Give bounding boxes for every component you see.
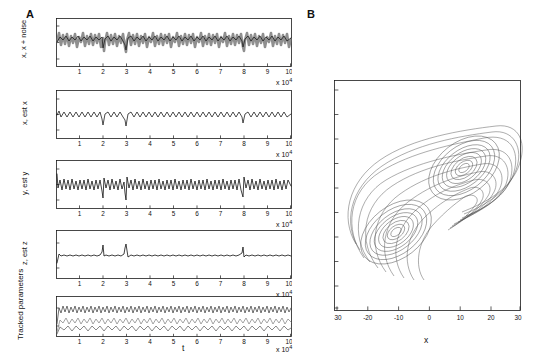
svg-text:4: 4 — [148, 338, 152, 345]
svg-text:-30: -30 — [334, 314, 342, 321]
svg-text:20: 20 — [487, 314, 495, 321]
subplot-est-z-svg: 50 0 1 2 3 4 5 6 7 8 9 10 — [56, 230, 292, 288]
data-trace-a2 — [57, 111, 291, 126]
svg-text:9: 9 — [266, 210, 270, 217]
svg-text:2: 2 — [101, 140, 105, 147]
svg-text:7: 7 — [219, 210, 223, 217]
svg-text:8: 8 — [242, 338, 246, 345]
svg-text:5: 5 — [172, 338, 176, 345]
data-trace-a3 — [57, 174, 291, 200]
svg-text:-10: -10 — [394, 314, 404, 321]
svg-text:7: 7 — [219, 140, 223, 147]
axes-frame-b — [334, 80, 520, 310]
x-exponent-a3: x 104 — [276, 219, 292, 228]
svg-text:6: 6 — [195, 68, 199, 75]
svg-text:7: 7 — [219, 338, 223, 345]
data-trace-param3-a5 — [57, 326, 291, 334]
svg-text:9: 9 — [266, 338, 270, 345]
subplot-est-x-svg: 50 0 -50 1 2 3 4 5 6 7 8 9 10 — [56, 90, 292, 148]
ylabel-a4: z, est z — [20, 241, 29, 265]
svg-text:10: 10 — [285, 68, 292, 75]
subplot-est-z: 50 0 1 2 3 4 5 6 7 8 9 10 — [56, 230, 292, 288]
x-exponent-a1: x 104 — [276, 77, 292, 86]
xtick-labels-a5: 1 2 3 4 5 6 7 8 9 10 — [78, 338, 292, 345]
subplot-tracked-parameters-svg: 0 -50 1 2 3 4 5 6 7 8 9 10 — [56, 296, 292, 348]
svg-text:0: 0 — [428, 314, 432, 321]
ylabel-a1: x, x + noise — [20, 20, 29, 58]
xlabel-panel-a: t — [182, 343, 184, 353]
svg-text:1: 1 — [78, 210, 82, 217]
svg-text:5: 5 — [172, 280, 176, 287]
subplot-est-y: 50 0 -50 1 2 3 4 5 6 7 8 9 10 — [56, 160, 292, 218]
x-exponent-a5: x 104 — [276, 344, 292, 353]
subplot-est-y-svg: 50 0 -50 1 2 3 4 5 6 7 8 9 10 — [56, 160, 292, 218]
svg-text:6: 6 — [195, 210, 199, 217]
svg-text:3: 3 — [125, 140, 129, 147]
xtick-labels-a1: 1 2 3 4 5 6 7 8 9 10 — [78, 68, 292, 75]
svg-text:3: 3 — [125, 68, 129, 75]
subplot-est-x: 50 0 -50 1 2 3 4 5 6 7 8 9 10 — [56, 90, 292, 148]
svg-text:2: 2 — [101, 68, 105, 75]
svg-text:1: 1 — [78, 140, 82, 147]
svg-text:3: 3 — [125, 210, 129, 217]
ylabel-a5: Tracked parameters — [16, 269, 25, 340]
subplot-x-plus-noise-svg: 20 0 -20 1 2 3 4 5 6 7 8 9 10 — [56, 18, 292, 76]
svg-text:2: 2 — [101, 280, 105, 287]
subplot-tracked-parameters: 0 -50 1 2 3 4 5 6 7 8 9 10 — [56, 296, 292, 348]
svg-text:4: 4 — [148, 140, 152, 147]
data-trace-attractor-b — [348, 123, 522, 280]
data-trace-noise-a1 — [57, 33, 291, 52]
svg-text:5: 5 — [172, 68, 176, 75]
svg-text:10: 10 — [285, 140, 292, 147]
svg-text:9: 9 — [266, 140, 270, 147]
svg-text:6: 6 — [195, 280, 199, 287]
svg-text:5: 5 — [172, 210, 176, 217]
svg-text:2: 2 — [101, 338, 105, 345]
svg-text:1: 1 — [78, 68, 82, 75]
data-trace-a4 — [57, 244, 291, 263]
svg-text:30: 30 — [514, 314, 522, 321]
svg-text:5: 5 — [172, 140, 176, 147]
xtick-marks-a1 — [56, 26, 290, 66]
svg-text:8: 8 — [242, 210, 246, 217]
svg-text:1: 1 — [78, 280, 82, 287]
svg-text:4: 4 — [148, 210, 152, 217]
svg-text:3: 3 — [125, 338, 129, 345]
svg-text:6: 6 — [195, 140, 199, 147]
axes-frame-a5 — [56, 296, 291, 336]
tick-marks-b — [334, 90, 520, 310]
xlabel-panel-b: x — [424, 335, 428, 345]
svg-text:8: 8 — [242, 68, 246, 75]
svg-text:7: 7 — [219, 68, 223, 75]
panel-a-label: A — [26, 8, 34, 20]
svg-text:1: 1 — [78, 338, 82, 345]
axes-frame-a4 — [56, 230, 291, 278]
svg-text:7: 7 — [219, 280, 223, 287]
svg-text:8: 8 — [242, 280, 246, 287]
svg-text:4: 4 — [148, 68, 152, 75]
svg-text:8: 8 — [242, 140, 246, 147]
svg-text:10: 10 — [285, 280, 292, 287]
xtick-labels-a4: 1 2 3 4 5 6 7 8 9 10 — [78, 280, 292, 287]
subplot-attractor-svg: 50 40 30 20 10 0 -10 -20 -30 -40 -30 -20… — [334, 80, 530, 330]
svg-text:10: 10 — [457, 314, 465, 321]
svg-text:3: 3 — [125, 280, 129, 287]
ylabel-a2: x, est x — [20, 101, 29, 125]
xtick-labels-b: -30 -20 -10 0 10 20 30 — [334, 314, 522, 321]
svg-text:9: 9 — [266, 68, 270, 75]
x-exponent-a2: x 104 — [276, 149, 292, 158]
panel-b-label: B — [307, 8, 315, 20]
svg-text:10: 10 — [285, 210, 292, 217]
axes-frame-a2 — [56, 90, 291, 138]
xtick-labels-a2: 1 2 3 4 5 6 7 8 9 10 — [78, 140, 292, 147]
svg-text:4: 4 — [148, 280, 152, 287]
svg-text:2: 2 — [101, 210, 105, 217]
svg-text:9: 9 — [266, 280, 270, 287]
svg-text:6: 6 — [195, 338, 199, 345]
subplot-attractor: 50 40 30 20 10 0 -10 -20 -30 -40 -30 -20… — [334, 80, 530, 330]
tick-marks-a2 — [56, 99, 290, 138]
tick-marks-a4 — [56, 243, 290, 278]
subplot-x-plus-noise: 20 0 -20 1 2 3 4 5 6 7 8 9 10 — [56, 18, 292, 76]
ylabel-a3: y, est y — [20, 172, 29, 195]
svg-text:-20: -20 — [363, 314, 373, 321]
